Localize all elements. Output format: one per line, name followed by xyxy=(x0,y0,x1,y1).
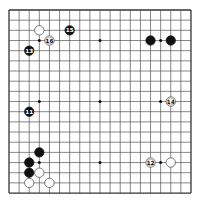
move-number-label: 11 xyxy=(25,109,33,115)
star-point xyxy=(38,100,41,103)
star-point xyxy=(38,161,41,164)
black-stone xyxy=(146,36,155,45)
star-point xyxy=(98,161,101,164)
go-board-svg: 161513141112 xyxy=(0,0,202,207)
stone-disc xyxy=(146,36,155,45)
black-stone: 11 xyxy=(25,107,34,116)
move-number-label: 15 xyxy=(66,27,74,33)
white-stone xyxy=(45,178,54,187)
stone-disc xyxy=(25,168,34,177)
stone-disc xyxy=(45,178,54,187)
black-stone xyxy=(25,168,34,177)
black-stone xyxy=(166,36,175,45)
white-stone: 16 xyxy=(45,36,54,45)
star-point xyxy=(159,161,162,164)
white-stone xyxy=(166,158,175,167)
move-number-label: 13 xyxy=(25,48,33,54)
black-stone xyxy=(35,148,44,157)
stone-disc xyxy=(25,178,34,187)
move-number-label: 12 xyxy=(147,160,155,166)
white-stone xyxy=(35,26,44,35)
go-board: 161513141112 xyxy=(0,0,202,207)
white-stone: 12 xyxy=(146,158,155,167)
stone-disc xyxy=(35,26,44,35)
star-point xyxy=(159,100,162,103)
stone-disc xyxy=(166,36,175,45)
stone-disc xyxy=(35,148,44,157)
stone-disc xyxy=(166,158,175,167)
star-point xyxy=(38,39,41,42)
black-stone: 15 xyxy=(65,26,74,35)
star-point xyxy=(98,100,101,103)
white-stone: 14 xyxy=(166,97,175,106)
black-stone: 13 xyxy=(25,46,34,55)
stone-disc xyxy=(25,158,34,167)
star-point xyxy=(98,39,101,42)
stone-disc xyxy=(35,168,44,177)
move-number-label: 14 xyxy=(167,99,175,105)
star-point xyxy=(159,39,162,42)
white-stone xyxy=(25,178,34,187)
white-stone xyxy=(35,168,44,177)
black-stone xyxy=(25,158,34,167)
move-number-label: 16 xyxy=(46,38,54,44)
